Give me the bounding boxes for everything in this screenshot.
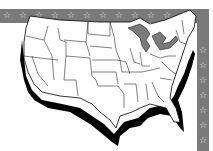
us-map	[0, 0, 213, 151]
